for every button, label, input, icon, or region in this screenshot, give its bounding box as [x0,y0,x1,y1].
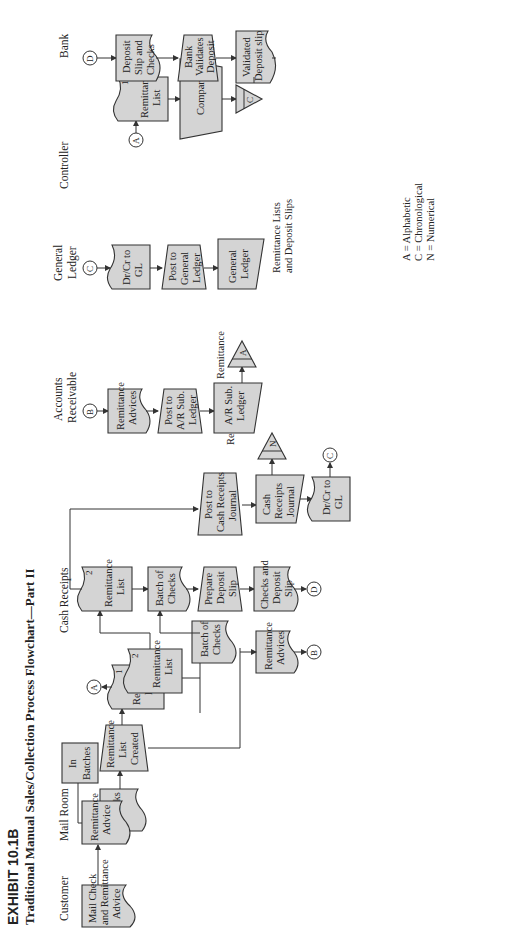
svg-text:Remittance: Remittance [105,720,116,768]
lane-controller: Controller [58,142,70,189]
doc-cr-batch-of-checks: Batch of Checks [148,567,190,611]
svg-text:Post to: Post to [167,252,178,281]
connector-c-out: C [323,448,337,462]
lane-ar-2: Receivable [66,372,78,423]
doc-drcr-to-gl-cr: Dr/Cr to GL [307,477,350,521]
doc-batch-of-checks-mailroom: Batch of Checks [192,621,236,663]
lane-gl-2: Ledger [66,246,79,279]
svg-text:Batch of: Batch of [154,570,165,606]
svg-text:Deposit: Deposit [121,40,132,73]
svg-text:1: 1 [114,670,124,675]
svg-text:A/R Sub.: A/R Sub. [175,391,186,430]
doc-gl-drcr: Dr/Cr to GL [107,245,150,289]
svg-text:Remittance: Remittance [151,640,162,688]
legend-numerical: N = Numerical [425,198,436,261]
lane-customer: Customer [58,876,70,921]
legend-alphabetic: A = Alphabetic [401,197,412,261]
svg-text:Checks and: Checks and [259,560,270,609]
svg-text:Remittance: Remittance [263,622,274,670]
svg-text:Ledger: Ledger [239,249,250,279]
doc-cr-remittance-list: 2 Remittance List [77,559,132,611]
svg-text:General: General [227,250,238,283]
doc-mail-check: Mail Check and Remittance Advice [82,859,135,927]
svg-text:Created: Created [129,732,140,765]
svg-text:Checks: Checks [211,624,222,655]
connector-a-out: A [87,680,101,694]
file-controller-chronological: C [236,85,262,113]
svg-text:Dr/Cr to: Dr/Cr to [321,480,332,515]
svg-text:Advices: Advices [127,391,138,425]
svg-text:Checks: Checks [166,573,177,604]
flowchart: EXHIBIT 10.1B Traditional Manual Sales/C… [0,0,514,933]
svg-text:D: D [309,586,319,593]
file-ar-alphabetic: A [228,341,256,367]
svg-text:A/R Sub.: A/R Sub. [223,386,234,425]
lane-gl-1: General [52,245,64,281]
svg-text:List: List [163,659,174,675]
svg-text:B: B [309,650,319,656]
svg-text:Slip: Slip [283,580,294,597]
connector-d-out: D [307,582,321,596]
svg-text:Cash Receipts: Cash Receipts [215,472,226,532]
svg-text:D: D [85,55,95,62]
svg-text:Remittance: Remittance [89,793,100,841]
doc-checks-and-deposit-slip: Checks and Deposit Slip [254,560,298,611]
svg-text:Slip: Slip [227,580,238,597]
flowchart-stage: EXHIBIT 10.1B Traditional Manual Sales/C… [0,0,514,933]
svg-text:Deposit: Deposit [205,40,216,73]
connector-a-in: A [129,133,143,147]
svg-text:Post to: Post to [203,490,214,519]
lane-cash-receipts: Cash Receipts [58,567,71,633]
legend-chronological: C = Chronological [413,183,424,261]
svg-text:2: 2 [84,571,94,576]
svg-text:Journal: Journal [285,486,296,517]
lane-mail-room: Mail Room [58,788,70,841]
svg-text:Post to: Post to [163,396,174,425]
manual-post-to-crj: Post to Cash Receipts Journal [198,472,242,535]
svg-text:Deposit: Deposit [271,571,282,604]
svg-text:Checks: Checks [145,44,156,75]
exhibit-title: Traditional Manual Sales/Collection Proc… [22,568,37,925]
svg-text:List: List [151,90,162,106]
svg-text:Ledger: Ledger [235,391,246,421]
svg-text:GL: GL [333,495,344,509]
lane-bank: Bank [58,33,70,58]
svg-text:Batches: Batches [81,747,92,780]
manual-remittance-list-created: Remittance List Created [100,720,148,771]
doc-validated-deposit-slip: Validated Deposit slip [236,31,276,83]
svg-text:Advices: Advices [275,631,286,665]
svg-text:Advice: Advice [111,888,122,919]
ledger-cash-receipts-journal: Cash Receipts Journal [256,475,304,523]
svg-text:A: A [89,684,99,691]
manual-post-to-gl: Post to General Ledger [162,245,206,289]
svg-text:Dr/Cr to: Dr/Cr to [121,250,132,285]
svg-text:Validates: Validates [194,38,205,77]
svg-text:Bank: Bank [183,45,194,68]
svg-text:Cash: Cash [261,493,272,515]
svg-text:Receipts: Receipts [273,483,284,519]
ledger-ar-sub-ledger: A/R Sub. Ledger [214,383,262,433]
svg-text:C: C [325,453,335,459]
svg-text:Ledger: Ledger [191,253,202,283]
ar-file-caption-1: Remittance [215,331,226,379]
doc-remittance-advice: Remittance Advice [82,793,130,844]
svg-text:A: A [238,349,248,356]
svg-text:List: List [117,742,128,758]
connector-d-in: D [83,51,97,65]
svg-text:List: List [115,579,126,595]
svg-text:In: In [67,759,78,768]
legend: A = Alphabetic C = Chronological N = Num… [401,183,436,261]
svg-text:Remittance: Remittance [103,559,114,607]
svg-text:Ledger: Ledger [187,395,198,425]
svg-text:A: A [131,137,141,144]
svg-text:Mail Check: Mail Check [87,873,98,923]
svg-text:GL: GL [133,263,144,277]
svg-text:Compare: Compare [195,76,206,115]
lane-ar-1: Accounts [52,377,64,421]
ledger-general-ledger: General Ledger [218,239,264,289]
svg-text:2: 2 [130,654,140,659]
doc-remittance-advices-mailroom: Remittance Advices [256,622,298,673]
svg-text:Validated: Validated [241,37,252,77]
svg-text:General: General [179,252,190,285]
file-crj-numerical: N [258,433,286,459]
